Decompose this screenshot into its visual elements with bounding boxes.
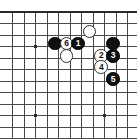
star-point — [34, 114, 38, 118]
go-diagram: 612345 — [0, 0, 137, 139]
star-point — [34, 45, 38, 49]
stone-move-number: 2 — [99, 51, 104, 60]
stone-move-number: 3 — [111, 51, 116, 60]
stone-black-move-3: 3 — [106, 49, 120, 63]
stone-move-number: 4 — [99, 62, 104, 71]
stone-move-number: 6 — [64, 39, 69, 48]
star-point — [103, 114, 107, 118]
go-board-grid — [0, 0, 137, 139]
stone-white-plain — [60, 49, 74, 63]
stone-black-move-5: 5 — [106, 72, 120, 86]
stone-move-number: 5 — [111, 75, 116, 84]
stone-move-number: 1 — [76, 39, 81, 48]
